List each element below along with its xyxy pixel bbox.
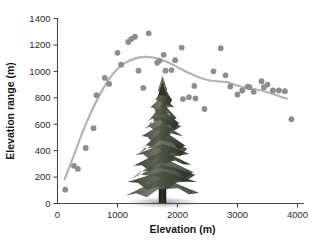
y-tick-label: 200 [35,171,51,182]
data-point [239,88,245,94]
x-tick-label: 4000 [287,209,308,220]
data-point [235,92,241,98]
y-tick-label: 400 [35,145,51,156]
data-point [161,52,167,58]
data-point [202,106,208,112]
scatter-plot: 0200400600800100012001400010002000300040… [0,0,320,242]
data-point [191,83,197,89]
x-tick-label: 0 [55,209,60,220]
data-point [186,94,192,100]
data-point [146,30,152,36]
data-point [247,84,253,90]
data-point [157,58,163,64]
x-axis-title: Elevation (m) [150,223,216,235]
x-tick-label: 3000 [227,209,248,220]
data-point [289,116,295,122]
data-point [276,88,282,94]
data-point [265,82,271,88]
y-tick-label: 800 [35,92,51,103]
data-point [163,68,169,74]
data-point [83,145,89,151]
y-axis-title: Elevation range (m) [4,62,16,159]
data-point [140,85,146,91]
y-tick-label: 1400 [29,13,50,24]
y-tick-label: 1200 [29,39,50,50]
data-point [172,57,178,63]
data-point [136,68,142,74]
chart-figure: 0200400600800100012001400010002000300040… [0,0,320,242]
data-point [115,50,121,56]
data-point [218,45,224,51]
data-point [223,72,229,78]
data-point [118,62,124,68]
y-tick-label: 600 [35,119,51,130]
y-tick-label: 1000 [29,66,50,77]
data-point [169,67,175,73]
conifer-tree-illustration [120,76,204,210]
data-point [179,45,185,51]
data-point [94,92,100,98]
data-point [102,75,108,81]
data-point [75,166,81,172]
x-tick-label: 1000 [107,209,128,220]
x-tick-label: 2000 [167,209,188,220]
y-tick-label: 0 [45,198,50,209]
data-point [180,96,186,102]
data-point [259,78,265,84]
data-point [270,88,276,94]
data-point [193,96,199,102]
data-point [132,34,138,40]
data-point [211,68,217,74]
data-point [91,125,97,131]
data-point [282,88,288,94]
data-point [251,89,257,95]
data-point [106,81,112,87]
data-point [62,187,68,193]
data-point [227,84,233,90]
